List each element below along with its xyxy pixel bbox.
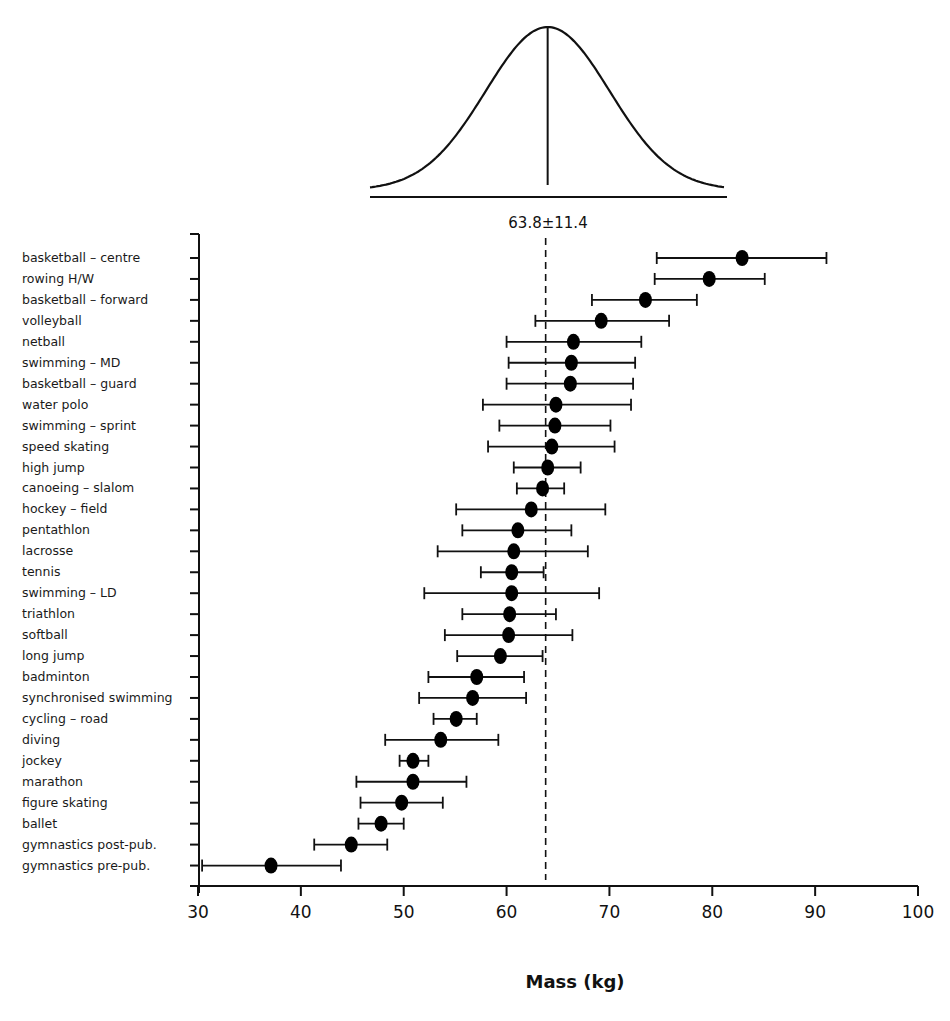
mean-marker (345, 837, 358, 853)
data-point (507, 334, 642, 350)
data-point (419, 690, 526, 706)
category-label: gymnastics pre-pub. (22, 858, 150, 873)
data-point (535, 313, 669, 329)
x-tick-label: 90 (804, 902, 826, 922)
category-label: jockey (21, 753, 62, 768)
data-point (509, 355, 636, 371)
data-point (481, 564, 544, 580)
category-label: tennis (22, 564, 60, 579)
category-label: water polo (22, 397, 88, 412)
category-label: netball (22, 334, 65, 349)
category-label: figure skating (22, 795, 108, 810)
mean-marker (545, 439, 558, 455)
x-tick-label: 30 (187, 902, 209, 922)
category-label: swimming – sprint (22, 418, 136, 433)
mean-marker (536, 480, 549, 496)
data-point (483, 397, 631, 413)
x-tick-label: 40 (290, 902, 312, 922)
mean-marker (639, 292, 652, 308)
axes: 30405060708090100 (187, 234, 934, 922)
x-tick-label: 70 (599, 902, 621, 922)
data-point (314, 837, 387, 853)
mean-marker (406, 774, 419, 790)
category-label: basketball – forward (22, 292, 148, 307)
mean-marker (736, 250, 749, 266)
mean-marker (541, 460, 554, 476)
mean-marker (470, 669, 483, 685)
data-point (462, 522, 571, 538)
mean-marker (595, 313, 608, 329)
category-label: marathon (22, 774, 83, 789)
mean-marker (564, 376, 577, 392)
category-label: rowing H/W (22, 271, 94, 286)
data-point (445, 627, 573, 643)
mean-marker (565, 355, 578, 371)
data-point (592, 292, 697, 308)
data-point (507, 376, 634, 392)
normal-distribution-curve (370, 27, 727, 197)
mean-marker (406, 753, 419, 769)
mean-marker (434, 732, 447, 748)
mean-marker (567, 334, 580, 350)
category-label: basketball – guard (22, 376, 137, 391)
data-point (424, 585, 599, 601)
category-label: cycling – road (22, 711, 108, 726)
category-label: long jump (22, 648, 85, 663)
category-label: badminton (22, 669, 90, 684)
mean-marker (703, 271, 716, 287)
data-point (456, 501, 605, 517)
mean-marker (265, 858, 278, 874)
data-point (462, 606, 556, 622)
mean-marker (549, 397, 562, 413)
category-label: synchronised swimming (22, 690, 173, 705)
data-point (514, 460, 581, 476)
data-point (202, 858, 341, 874)
data-point (488, 439, 615, 455)
mean-marker (505, 564, 518, 580)
category-label: basketball – centre (22, 250, 140, 265)
category-label: swimming – LD (22, 585, 117, 600)
x-tick-label: 80 (701, 902, 723, 922)
data-point (517, 480, 564, 496)
data-point (361, 795, 443, 811)
category-label: ballet (22, 816, 57, 831)
mean-marker (548, 418, 561, 434)
x-tick-label: 50 (393, 902, 415, 922)
data-point (657, 250, 827, 266)
mean-marker (503, 606, 516, 622)
mean-marker (450, 711, 463, 727)
category-label: hockey – field (22, 501, 108, 516)
data-point (400, 753, 429, 769)
data-point (499, 418, 610, 434)
data-point (434, 711, 477, 727)
category-label: speed skating (22, 439, 109, 454)
category-label: volleyball (22, 313, 82, 328)
category-label: high jump (22, 460, 85, 475)
mean-marker (505, 585, 518, 601)
category-labels: basketball – centrerowing H/Wbasketball … (21, 250, 173, 873)
category-label: canoeing – slalom (22, 480, 134, 495)
data-point (358, 816, 403, 832)
category-label: swimming – MD (22, 355, 121, 370)
mean-marker (525, 501, 538, 517)
category-label: gymnastics post-pub. (22, 837, 157, 852)
category-label: triathlon (22, 606, 75, 621)
category-label: lacrosse (22, 543, 74, 558)
mean-marker (375, 816, 388, 832)
data-point (438, 543, 588, 559)
mass-by-sport-chart: 63.8±11.4 30405060708090100 basketball –… (0, 0, 950, 1021)
data-point (385, 732, 498, 748)
mean-marker (507, 543, 520, 559)
data-point (457, 648, 542, 664)
mean-marker (395, 795, 408, 811)
x-tick-label: 100 (902, 902, 934, 922)
distribution-label: 63.8±11.4 (508, 214, 587, 232)
data-points (202, 250, 826, 874)
data-point (655, 271, 765, 287)
x-axis-title: Mass (kg) (525, 971, 624, 992)
category-label: diving (22, 732, 60, 747)
mean-marker (466, 690, 479, 706)
x-tick-label: 60 (496, 902, 518, 922)
category-label: pentathlon (22, 522, 90, 537)
category-label: softball (22, 627, 68, 642)
